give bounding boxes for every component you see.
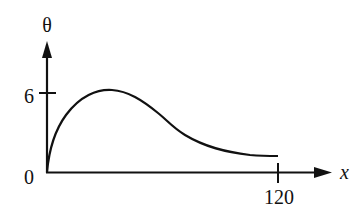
theta-curve [47, 90, 278, 172]
y-tick-label-6: 6 [24, 85, 34, 107]
y-axis-arrow-icon [42, 41, 52, 58]
x-axis-arrow-icon [314, 167, 332, 178]
x-axis-label: x [339, 161, 349, 183]
origin-label: 0 [24, 166, 34, 188]
chart: θ x 0 6 120 [0, 0, 357, 217]
x-tick-label-120: 120 [264, 186, 294, 208]
y-axis-label: θ [42, 14, 52, 36]
